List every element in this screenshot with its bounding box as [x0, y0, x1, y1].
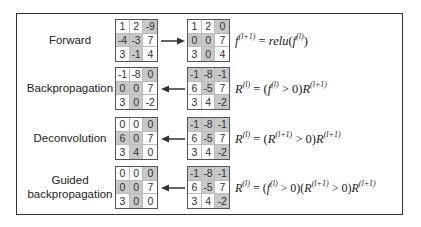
matrix-cell: 0 — [116, 82, 130, 96]
matrix-cell: -1 — [215, 118, 229, 132]
output-matrix: 120007304 — [187, 19, 230, 62]
matrix-cell: -5 — [202, 82, 216, 96]
matrix-cell: -8 — [202, 118, 216, 132]
matrix-cell: 4 — [202, 194, 216, 208]
matrix-cell: 0 — [143, 118, 157, 132]
matrix-cell: -1 — [130, 47, 144, 61]
arrow-left-icon — [160, 134, 186, 144]
matrix-cell: -8 — [130, 68, 144, 82]
output-matrix: -1-8000730-2 — [115, 67, 158, 110]
row-label: Guided backpropagation — [20, 173, 120, 201]
matrix-cell: 3 — [116, 47, 130, 61]
matrix-cell: 7 — [143, 34, 157, 48]
matrix-cell: -1 — [188, 68, 202, 82]
matrix-cell: 0 — [116, 118, 130, 132]
matrix-cell: -5 — [202, 181, 216, 195]
matrix-cell: 7 — [143, 181, 157, 195]
matrix-cell: -1 — [215, 68, 229, 82]
matrix-cell: 0 — [143, 145, 157, 159]
matrix-cell: 0 — [130, 118, 144, 132]
arrow-right-icon — [160, 36, 186, 46]
row-label: Backpropagation — [20, 81, 120, 95]
matrix-cell: 3 — [188, 145, 202, 159]
matrix-cell: -8 — [202, 167, 216, 181]
matrix-cell: 2 — [202, 20, 216, 34]
matrix-cell: 4 — [202, 95, 216, 109]
matrix-cell: -8 — [202, 68, 216, 82]
matrix-cell: 3 — [116, 194, 130, 208]
matrix-cell: 7 — [143, 82, 157, 96]
row-backpropagation: Backpropagation -1-8000730-2 -1-8-16-573… — [0, 67, 421, 111]
input-matrix: 12-9-4-373-14 — [115, 19, 158, 62]
row-deconvolution: Deconvolution 000607340 -1-8-16-5734-2 R… — [0, 117, 421, 161]
matrix-cell: 6 — [116, 132, 130, 146]
matrix-cell: -5 — [202, 132, 216, 146]
formula-deconvolution: R(l) = (R(l+1) > 0)R(l+1) — [235, 130, 341, 147]
matrix-cell: 0 — [143, 194, 157, 208]
matrix-cell: 4 — [130, 145, 144, 159]
output-matrix: 000607340 — [115, 117, 158, 160]
matrix-cell: 7 — [215, 181, 229, 195]
matrix-cell: -2 — [215, 145, 229, 159]
matrix-cell: 0 — [130, 181, 144, 195]
row-forward: Forward 12-9-4-373-14 120007304 f(l+1) =… — [0, 19, 421, 63]
matrix-cell: 6 — [188, 132, 202, 146]
row-label-line2: backpropagation — [20, 187, 120, 201]
matrix-cell: 4 — [215, 47, 229, 61]
matrix-cell: 3 — [116, 95, 130, 109]
matrix-cell: 0 — [130, 95, 144, 109]
matrix-cell: 3 — [116, 145, 130, 159]
matrix-cell: 7 — [215, 34, 229, 48]
row-label: Deconvolution — [20, 131, 120, 145]
row-guided-backpropagation: Guided backpropagation 000007300 -1-8-16… — [0, 166, 421, 210]
matrix-cell: 6 — [188, 181, 202, 195]
matrix-cell: 4 — [143, 47, 157, 61]
matrix-cell: 2 — [130, 20, 144, 34]
matrix-cell: 4 — [202, 145, 216, 159]
matrix-cell: 6 — [188, 82, 202, 96]
matrix-cell: 1 — [116, 20, 130, 34]
matrix-cell: -2 — [215, 194, 229, 208]
matrix-cell: 7 — [215, 132, 229, 146]
matrix-cell: 1 — [188, 20, 202, 34]
matrix-cell: -4 — [116, 34, 130, 48]
matrix-cell: 0 — [188, 34, 202, 48]
matrix-cell: -2 — [143, 95, 157, 109]
formula-forward: f(l+1) = relu(f(l)) — [235, 32, 308, 49]
matrix-cell: -1 — [215, 167, 229, 181]
row-label: Forward — [20, 33, 120, 47]
output-matrix: 000007300 — [115, 166, 158, 209]
input-matrix: -1-8-16-5734-2 — [187, 117, 230, 160]
input-matrix: -1-8-16-5734-2 — [187, 166, 230, 209]
matrix-cell: 3 — [188, 47, 202, 61]
matrix-cell: 3 — [188, 194, 202, 208]
matrix-cell: 0 — [202, 34, 216, 48]
matrix-cell: 0 — [130, 82, 144, 96]
matrix-cell: 0 — [130, 167, 144, 181]
matrix-cell: 0 — [202, 47, 216, 61]
matrix-cell: 0 — [130, 132, 144, 146]
matrix-cell: 0 — [215, 20, 229, 34]
formula-guided-backpropagation: R(l) = (f(l) > 0)(R(l+1) > 0)R(l+1) — [235, 179, 376, 196]
matrix-cell: -2 — [215, 95, 229, 109]
matrix-cell: 0 — [143, 167, 157, 181]
row-label-line1: Guided — [20, 173, 120, 187]
matrix-cell: 7 — [143, 132, 157, 146]
matrix-cell: -3 — [130, 34, 144, 48]
formula-backpropagation: R(l) = (f(l) > 0)R(l+1) — [235, 80, 327, 97]
matrix-cell: 0 — [116, 181, 130, 195]
matrix-cell: -9 — [143, 20, 157, 34]
arrow-left-icon — [160, 183, 186, 193]
matrix-cell: 0 — [130, 194, 144, 208]
matrix-cell: 0 — [116, 167, 130, 181]
matrix-cell: 7 — [215, 82, 229, 96]
arrow-left-icon — [160, 84, 186, 94]
matrix-cell: -1 — [188, 118, 202, 132]
matrix-cell: 0 — [143, 68, 157, 82]
input-matrix: -1-8-16-5734-2 — [187, 67, 230, 110]
matrix-cell: -1 — [188, 167, 202, 181]
matrix-cell: -1 — [116, 68, 130, 82]
matrix-cell: 3 — [188, 95, 202, 109]
